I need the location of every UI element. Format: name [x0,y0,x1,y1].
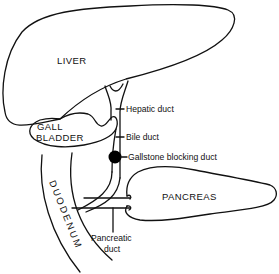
gallbladder-label-line1: GALL [37,121,63,132]
gallbladder-label-line2: BLADDER [36,132,84,143]
biliary-diagram: LIVER GALL BLADDER PANCREAS Hepatic duct… [0,0,279,274]
pancreatic-duct-label-line2: duct [104,244,121,254]
bile-duct-label: Bile duct [126,132,160,142]
gallstone [109,151,122,164]
liver-label: LIVER [57,55,86,66]
duodenum-shape [41,153,112,272]
pancreas-label: PANCREAS [162,191,217,202]
pancreatic-duct-shape [72,198,130,232]
liver-shape [3,5,235,126]
pancreatic-duct-label-line1: Pancreatic [91,233,132,243]
hepatic-duct-label: Hepatic duct [126,104,174,114]
gallstone-label: Gallstone blocking duct [128,152,217,162]
